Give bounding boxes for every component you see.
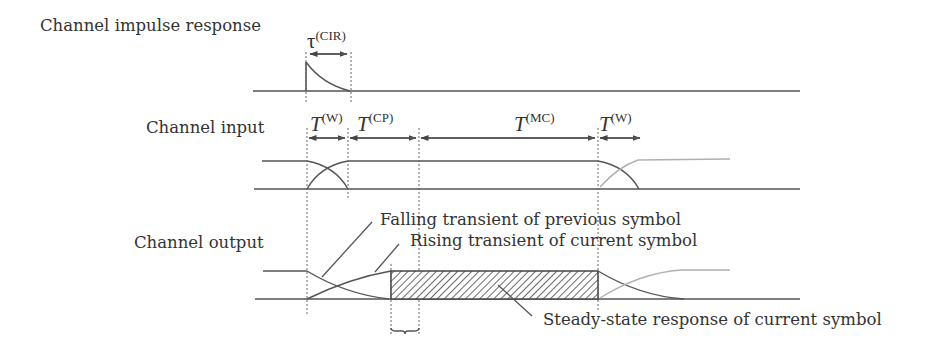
falling-leader	[322, 222, 372, 277]
input-next-symbol	[600, 159, 730, 187]
output-falling-tail	[598, 271, 684, 299]
t-w1-label: T(W)	[310, 110, 343, 136]
rising-leader	[375, 244, 399, 272]
steady-state-region	[391, 271, 598, 299]
t-cp-label: T(CP)	[357, 110, 393, 136]
input-rising-window	[307, 161, 348, 189]
cir-plot: τ(CIR)	[253, 28, 800, 102]
gap-brace	[391, 328, 419, 334]
output-next-symbol	[600, 270, 730, 298]
cir-decay-curve	[306, 62, 350, 91]
falling-transient-label: Falling transient of previous symbol	[380, 210, 681, 229]
input-falling-window-2	[598, 161, 639, 189]
input-plot: T(W) T(CP) T(MC) T(W)	[254, 110, 800, 189]
cir-row-label: Channel impulse response	[40, 16, 261, 35]
ofdm-windowing-diagram: Channel impulse response Channel input C…	[0, 0, 929, 350]
steady-state-label: Steady-state response of current symbol	[543, 310, 882, 329]
output-rising-transient	[307, 271, 391, 299]
tau-cir-label: τ(CIR)	[307, 28, 346, 53]
rising-transient-label: Rising transient of current symbol	[410, 231, 697, 250]
t-w2-label: T(W)	[599, 110, 632, 136]
annotations: Falling transient of previous symbol Ris…	[322, 210, 882, 329]
output-falling-transient	[307, 271, 389, 299]
input-row-label: Channel input	[146, 118, 265, 137]
t-mc-label: T(MC)	[514, 110, 555, 136]
output-row-label: Channel output	[134, 233, 264, 252]
input-falling-window	[307, 161, 348, 189]
